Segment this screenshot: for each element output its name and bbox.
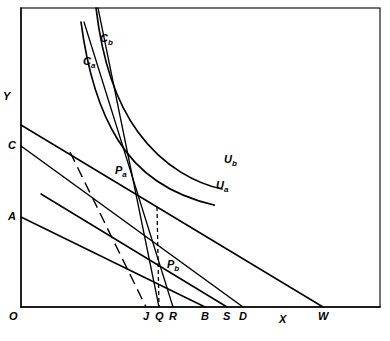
diagram-svg — [0, 0, 390, 341]
curve-label-Ca-sub: a — [91, 61, 95, 70]
x-tick-label-S: S — [223, 311, 230, 322]
budget-line-to-W — [21, 125, 323, 307]
x-tick-label-Q: Q — [155, 311, 164, 322]
curve-label-Ua-base: U — [216, 179, 224, 191]
x-axis-label: X — [279, 314, 286, 325]
price-line-to-R — [84, 22, 173, 307]
curve-label-Ca: Ca — [83, 56, 95, 70]
x-tick-label-R: R — [169, 311, 177, 322]
x-tick-label-D: D — [239, 311, 247, 322]
point-label-Pa: Pa — [115, 165, 127, 179]
y-intercept-label-C: C — [8, 140, 16, 151]
point-label-Pb-sub: b — [174, 264, 179, 273]
curve-label-Ua-sub: a — [224, 185, 228, 194]
price-line-to-Q — [98, 8, 159, 307]
budget-line-to-S — [41, 194, 227, 307]
point-label-Pb: Pb — [167, 259, 179, 273]
x-tick-label-W: W — [318, 311, 328, 322]
y-intercept-label-A: A — [8, 211, 16, 222]
curve-label-Ub-sub: b — [232, 159, 237, 168]
y-axis-label: Y — [3, 91, 10, 102]
curve-label-Ca-base: C — [83, 55, 91, 67]
x-tick-label-J: J — [143, 311, 149, 322]
indifference-curve-Ua — [81, 22, 214, 205]
curve-label-Cb: Cb — [100, 33, 113, 47]
budget-line-C-to-D — [21, 146, 243, 307]
curve-label-Cb-sub: b — [108, 38, 113, 47]
indifference-curve-Ub — [96, 8, 222, 189]
x-tick-label-B: B — [201, 311, 209, 322]
curve-label-Ua: Ua — [216, 180, 228, 194]
dashed-price-line-to-J — [70, 152, 146, 307]
point-label-Pa-sub: a — [122, 170, 126, 179]
curve-label-Cb-base: C — [100, 32, 108, 44]
figure-canvas: Y X O C A J Q R B S D W Cb Ca Ub Ua Pa P… — [0, 0, 390, 341]
curve-label-Ub: Ub — [224, 154, 237, 168]
origin-label: O — [9, 311, 18, 322]
curve-label-Ub-base: U — [224, 153, 232, 165]
